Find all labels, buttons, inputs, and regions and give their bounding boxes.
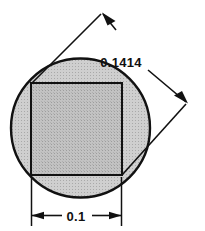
width-dimension-label: 0.1 [67, 209, 86, 224]
inscribed-square [31, 83, 122, 175]
engineering-drawing-canvas: 0.1 0.1414 [0, 0, 205, 231]
arrowhead-right [109, 212, 122, 219]
arrowhead-diagonal-upper [102, 13, 116, 26]
drawing-svg: 0.1 0.1414 [0, 0, 205, 231]
arrowhead-left [32, 212, 45, 219]
diagonal-dimension-label: 0.1414 [100, 55, 142, 70]
